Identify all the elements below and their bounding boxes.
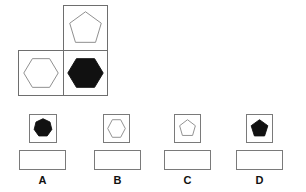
option-a-figure xyxy=(29,114,57,143)
pentagon-outline-icon xyxy=(175,115,200,142)
option-d-answer-box[interactable] xyxy=(236,150,283,170)
option-b-answer-box[interactable] xyxy=(94,150,141,170)
option-b-label: B xyxy=(94,174,141,186)
option-c-label: C xyxy=(164,174,211,186)
option-a-label: A xyxy=(19,174,66,186)
grid-cell-bottom-left xyxy=(18,50,64,96)
grid-cell-bottom-right xyxy=(63,50,108,96)
grid-cell-top-right xyxy=(63,5,108,51)
option-c-figure xyxy=(174,114,201,143)
option-d-label: D xyxy=(236,174,283,186)
pentagon-outline-icon xyxy=(64,6,107,50)
option-b-figure xyxy=(103,114,130,143)
hexagon-filled-icon xyxy=(64,51,107,95)
heptagon-filled-icon xyxy=(30,115,56,142)
option-c-answer-box[interactable] xyxy=(164,150,211,170)
option-d-figure xyxy=(246,114,273,143)
hexagon-outline-icon xyxy=(104,115,129,142)
hexagon-outline-icon xyxy=(19,51,63,95)
option-a-answer-box[interactable] xyxy=(19,150,66,170)
pentagon-filled-icon xyxy=(247,115,272,142)
